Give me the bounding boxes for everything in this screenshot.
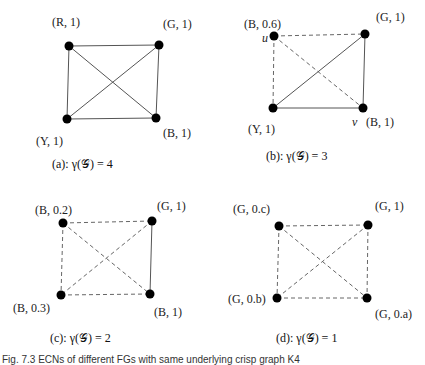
vertex-br xyxy=(152,114,161,123)
graph-panel-a: (R, 1)(G, 1)(Y, 1)(B, 1)(a): γ(𝒢) = 4 xyxy=(36,15,192,171)
vertex-bl xyxy=(63,115,72,124)
vertex-label: (B, 1) xyxy=(154,305,182,319)
vertex-tr xyxy=(148,217,157,226)
edge-bl-br xyxy=(61,294,150,295)
edge-bl-br xyxy=(67,118,156,119)
vertex-label: (G, 1) xyxy=(157,199,186,213)
vertex-label: (G, 0.c) xyxy=(233,202,270,216)
edge-tl-bl xyxy=(277,226,279,298)
vertex-tag: u xyxy=(262,31,268,45)
figure-canvas: (R, 1)(G, 1)(Y, 1)(B, 1)(a): γ(𝒢) = 4(B,… xyxy=(0,0,425,365)
edge-tr-br xyxy=(150,221,152,294)
vertex-label: (B, 1) xyxy=(163,126,191,140)
graph-panel-d: (G, 0.c)(G, 1)(G, 0.b)(G, 0.a)(d): γ(𝒢) … xyxy=(228,199,412,345)
vertex-label: (B, 0.2) xyxy=(35,203,72,217)
vertex-bl xyxy=(269,104,278,113)
edge-tl-bl xyxy=(273,36,274,108)
panel-caption: (a): γ(𝒢) = 4 xyxy=(52,157,113,171)
vertex-br xyxy=(359,104,368,113)
vertex-tr xyxy=(155,41,164,50)
edge-tr-br xyxy=(156,45,159,118)
edge-tl-tr xyxy=(274,34,365,36)
vertex-label: (G, 0.a) xyxy=(375,307,412,321)
vertex-tag: v xyxy=(352,115,358,129)
edge-tl-bl xyxy=(61,223,63,295)
graph-panel-b: (B, 0.6)u(G, 1)(Y, 1)(B, 1)v(b): γ(𝒢) = … xyxy=(244,10,405,163)
edge-tl-tr xyxy=(279,225,368,226)
vertex-tr xyxy=(361,30,370,39)
vertex-label: (Y, 1) xyxy=(248,122,275,136)
vertex-bl xyxy=(57,291,66,300)
graph-panel-c: (B, 0.2)(G, 1)(B, 0.3)(B, 1)(c): γ(𝒢) = … xyxy=(13,199,186,345)
edge-tl-tr xyxy=(63,221,152,223)
vertex-br xyxy=(146,290,155,299)
vertex-label: (G, 1) xyxy=(376,10,405,24)
edge-tl-tr xyxy=(69,45,159,46)
vertex-tl xyxy=(270,32,279,41)
vertex-label: (B, 0.3) xyxy=(13,301,50,315)
vertex-tr xyxy=(364,221,373,230)
panels-layer: (R, 1)(G, 1)(Y, 1)(B, 1)(a): γ(𝒢) = 4(B,… xyxy=(13,10,412,345)
vertex-label: (Y, 1) xyxy=(36,134,63,148)
vertex-tl xyxy=(65,42,74,51)
vertex-br xyxy=(363,294,372,303)
vertex-bl xyxy=(273,294,282,303)
panel-caption: (d): γ(𝒢) = 1 xyxy=(276,331,337,345)
vertex-label: (G, 0.b) xyxy=(228,292,266,306)
vertex-tl xyxy=(59,219,68,228)
figure-caption: Fig. 7.3 ECNs of different FGs with same… xyxy=(2,354,300,365)
vertex-label: (G, 1) xyxy=(163,17,192,31)
edge-tr-br xyxy=(367,225,368,298)
panel-caption: (b): γ(𝒢) = 3 xyxy=(266,149,327,163)
vertex-label: (B, 1) xyxy=(366,115,394,129)
edge-tl-bl xyxy=(67,46,69,119)
edge-tr-bl xyxy=(273,34,365,108)
edge-tr-br xyxy=(363,34,365,108)
vertex-label: (R, 1) xyxy=(52,15,80,29)
vertex-label: (G, 1) xyxy=(375,199,404,213)
vertex-label: (B, 0.6) xyxy=(244,17,281,31)
edge-tl-br xyxy=(279,226,367,298)
panel-caption: (c): γ(𝒢) = 2 xyxy=(50,331,111,345)
vertex-tl xyxy=(275,222,284,231)
